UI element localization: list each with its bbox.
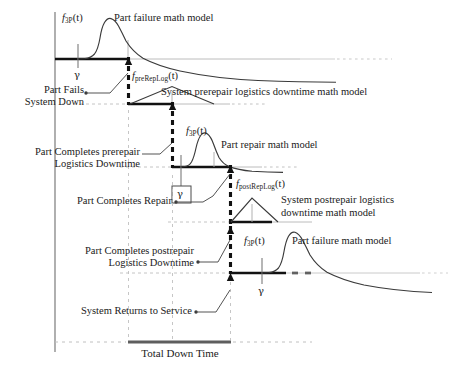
leader-line-completes-postrepair [198, 240, 230, 262]
level-1-part-failure [55, 18, 392, 82]
event-leader-lines [84, 73, 230, 314]
gamma-symbol-boxed: γ [177, 188, 183, 199]
event-label-completes-prerepair: Part Completes prerepair Logistics Downt… [0, 146, 140, 170]
event-label-completes-postrepair-line1: Part Completes postrepair [0, 245, 194, 257]
leader-line-returns-to-service [196, 290, 230, 312]
event-label-part-fails-line2: System Down [0, 96, 84, 108]
model-label-part-failure-top: Part failure math model [114, 12, 213, 24]
function-label-f-postrep: fpostRepLog(t) [236, 178, 285, 190]
event-label-completes-postrepair: Part Completes postrepair Logistics Down… [0, 245, 194, 269]
transition-completes-prerepair [169, 102, 176, 168]
downtime-model-diagram [0, 0, 452, 375]
postrepair-logistics-triangle [231, 198, 278, 222]
model-label-postrepair-logistics-line2: downtime math model [281, 207, 376, 219]
model-label-part-repair: Part repair math model [221, 139, 318, 151]
event-label-part-fails-line1: Part Fails [0, 84, 84, 96]
leader-line-part-fails [86, 73, 128, 93]
model-label-postrepair-logistics-line1: System postrepair logistics [281, 194, 394, 206]
leader-line-completes-prerepair [142, 143, 172, 154]
event-label-completes-repair-line1: Part Completes Repair [0, 195, 172, 207]
arrowhead-completes-postrepair-top [227, 227, 234, 235]
function-label-f3p-top: f3P(t) [62, 12, 83, 24]
function-label-f3p-repair: f3P(t) [186, 125, 207, 137]
diagram-canvas: f3P(t) fpreRepLog(t) f3P(t) fpostRepLog(… [0, 0, 452, 375]
leader-line-completes-repair [176, 174, 230, 202]
gamma-symbol-bottom: γ [258, 285, 264, 296]
function-label-f3p-bottom: f3P(t) [244, 235, 265, 247]
model-label-part-failure-bottom: Part failure math model [292, 235, 391, 247]
event-label-returns-to-service-line1: System Returns to Service [0, 305, 192, 317]
model-label-prerepair-logistics: System prerepair logistics downtime math… [161, 86, 367, 98]
event-label-completes-prerepair-line1: Part Completes prerepair [0, 146, 140, 158]
event-label-completes-prerepair-line2: Logistics Downtime [0, 158, 140, 170]
gamma-symbol-top: γ [74, 69, 80, 80]
total-down-time-label: Total Down Time [130, 347, 230, 359]
event-label-part-fails: Part Fails System Down [0, 84, 84, 108]
event-label-completes-repair: Part Completes Repair [0, 195, 172, 207]
event-label-completes-postrepair-line2: Logistics Downtime [0, 257, 194, 269]
function-label-f-prerep: fpreRepLog(t) [132, 70, 178, 82]
part-failure-curve-top [78, 18, 336, 82]
event-label-returns-to-service: System Returns to Service [0, 305, 192, 317]
transition-completes-repair [227, 165, 234, 224]
